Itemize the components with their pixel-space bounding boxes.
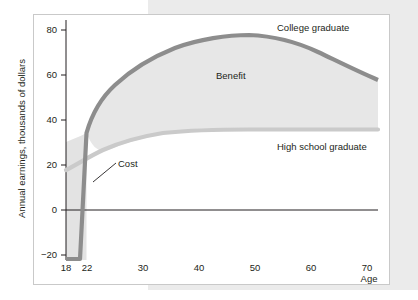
- annotation-leader-lines: [0, 0, 418, 300]
- cost-leader-line: [93, 163, 116, 182]
